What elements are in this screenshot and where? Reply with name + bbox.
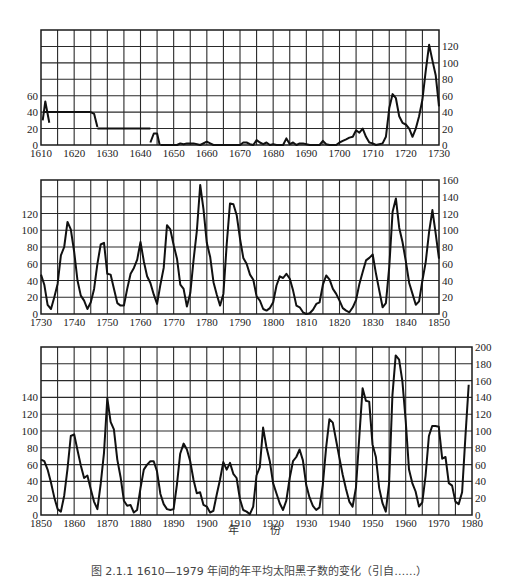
svg-text:20: 20	[27, 123, 39, 135]
svg-text:1780: 1780	[196, 316, 219, 328]
svg-text:180: 180	[475, 358, 492, 370]
svg-text:80: 80	[27, 241, 39, 253]
svg-text:1760: 1760	[130, 316, 153, 328]
svg-text:40: 40	[27, 106, 39, 118]
svg-text:20: 20	[442, 291, 454, 303]
figure-caption: 图 2.1.1 1610—1979 年间的年平均太阳黑子数的变化（引自……）	[0, 562, 518, 578]
svg-text:1710: 1710	[362, 147, 385, 159]
svg-text:20: 20	[442, 123, 454, 135]
svg-text:1750: 1750	[96, 316, 119, 328]
svg-text:1690: 1690	[295, 147, 318, 159]
y-tick-labels-right: 020406080100120140160	[442, 174, 459, 320]
y-tick-labels-left: 0204060	[27, 90, 39, 151]
x-tick-labels: 1610162016301640165016601670168016901700…	[30, 147, 451, 159]
svg-text:1620: 1620	[63, 147, 86, 159]
svg-text:20: 20	[27, 291, 39, 303]
svg-text:1840: 1840	[395, 316, 418, 328]
svg-text:100: 100	[442, 224, 459, 236]
svg-text:20: 20	[27, 492, 39, 504]
svg-text:60: 60	[27, 90, 39, 102]
svg-text:100: 100	[475, 425, 492, 437]
svg-text:0: 0	[33, 139, 39, 151]
svg-text:120: 120	[475, 408, 492, 420]
y-tick-labels-right: 020406080100120	[442, 40, 459, 151]
svg-text:1790: 1790	[229, 316, 252, 328]
sunspot-series-line	[150, 134, 159, 146]
svg-text:120: 120	[22, 208, 39, 220]
svg-text:1660: 1660	[196, 147, 219, 159]
y-tick-labels-right: 020406080100120140160180200	[475, 341, 492, 521]
chart-panel-1: 1610162016301640165016601670168016901700…	[27, 30, 459, 159]
svg-text:60: 60	[27, 459, 39, 471]
svg-text:1700: 1700	[329, 147, 352, 159]
svg-text:1640: 1640	[130, 147, 153, 159]
x-tick-labels: 1730174017501760177017801790180018101820…	[30, 316, 451, 328]
svg-text:1680: 1680	[262, 147, 285, 159]
sunspot-series-line	[41, 355, 469, 514]
svg-text:40: 40	[442, 275, 454, 287]
svg-text:0: 0	[33, 509, 39, 521]
x-axis-title: 年 份	[0, 521, 518, 537]
svg-text:0: 0	[442, 139, 448, 151]
svg-text:1720: 1720	[395, 147, 418, 159]
svg-text:1810: 1810	[295, 316, 318, 328]
svg-text:80: 80	[475, 442, 487, 454]
svg-text:100: 100	[22, 425, 39, 437]
svg-text:1650: 1650	[163, 147, 186, 159]
svg-text:140: 140	[475, 391, 492, 403]
svg-text:120: 120	[22, 408, 39, 420]
svg-text:100: 100	[442, 57, 459, 69]
svg-text:40: 40	[27, 275, 39, 287]
y-tick-labels-left: 020406080100120	[22, 208, 39, 321]
svg-text:1740: 1740	[63, 316, 86, 328]
svg-text:1670: 1670	[229, 147, 252, 159]
svg-text:120: 120	[442, 40, 459, 52]
svg-text:80: 80	[27, 442, 39, 454]
svg-text:1800: 1800	[262, 316, 285, 328]
svg-text:0: 0	[475, 509, 481, 521]
svg-text:40: 40	[442, 106, 454, 118]
svg-text:1770: 1770	[163, 316, 186, 328]
svg-text:1820: 1820	[329, 316, 352, 328]
svg-text:140: 140	[22, 391, 39, 403]
svg-text:20: 20	[475, 492, 487, 504]
sunspot-series-line	[91, 112, 98, 127]
svg-text:1630: 1630	[96, 147, 119, 159]
chart-panel-3: 1850186018701880189019001910192019301940…	[22, 341, 493, 529]
svg-text:100: 100	[22, 224, 39, 236]
chart-panel-2: 1730174017501760177017801790180018101820…	[22, 174, 460, 328]
svg-text:200: 200	[475, 341, 492, 353]
svg-text:40: 40	[475, 475, 487, 487]
svg-text:0: 0	[442, 308, 448, 320]
svg-text:60: 60	[442, 90, 454, 102]
svg-text:80: 80	[442, 73, 454, 85]
svg-text:60: 60	[475, 459, 487, 471]
svg-text:60: 60	[27, 258, 39, 270]
svg-text:40: 40	[27, 475, 39, 487]
svg-text:140: 140	[442, 191, 459, 203]
svg-text:120: 120	[442, 208, 459, 220]
y-tick-labels-left: 020406080100120140	[22, 391, 39, 521]
svg-text:160: 160	[442, 174, 459, 186]
svg-text:1830: 1830	[362, 316, 385, 328]
svg-text:80: 80	[442, 241, 454, 253]
svg-text:160: 160	[475, 375, 492, 387]
sunspot-series-line	[160, 45, 439, 145]
svg-text:0: 0	[33, 308, 39, 320]
svg-text:60: 60	[442, 258, 454, 270]
